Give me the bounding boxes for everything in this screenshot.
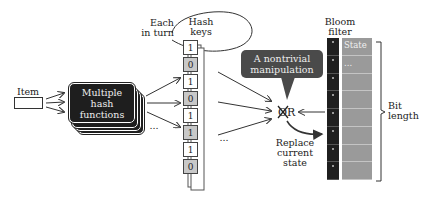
hash-key-bit: 0: [183, 57, 198, 72]
hash-functions-label-1: Multiple: [70, 87, 134, 98]
xor-operator-icon: OR: [276, 104, 296, 120]
hash-functions-label-2: hash: [70, 98, 134, 109]
bloom-filter-state-column: State ...: [342, 38, 372, 180]
hash-key-bit: 1: [183, 74, 198, 89]
bloom-state-row: State: [342, 38, 372, 56]
bloom-bit: [327, 56, 339, 74]
hash-key-bit: 1: [183, 125, 198, 140]
hash-keys-column: 1 0 1 0 1 1 1 0: [183, 40, 197, 176]
hash-functions-ellipsis: ...: [148, 121, 160, 131]
bloom-state-row: ...: [342, 56, 372, 74]
hash-key-bit: 1: [183, 142, 198, 157]
item-arrows: [46, 93, 64, 112]
each-in-turn-line-2: in turn: [138, 28, 174, 38]
each-in-turn-label: Each in turn: [138, 18, 174, 38]
hash-functions-box: Multiple hash functions: [69, 83, 135, 123]
item-label: Item: [14, 87, 42, 97]
bloom-bit: [327, 162, 339, 180]
bloom-bit: [327, 74, 339, 92]
bloom-bit: [327, 145, 339, 163]
bloom-bit: [327, 127, 339, 145]
replace-line-3: state: [274, 158, 316, 168]
bloom-filter-title-2: filter: [323, 27, 357, 37]
key-arrows: [218, 72, 271, 135]
bit-length-label: Bit length: [388, 101, 424, 121]
hash-key-bit: 1: [183, 40, 198, 55]
bit-length-brace: [376, 42, 385, 181]
bloom-filter-bits-column: [327, 38, 339, 180]
callout-line-2: manipulation: [241, 64, 323, 75]
bloom-state-row: [342, 74, 372, 92]
bloom-bit: [327, 109, 339, 127]
bloom-state-row: [342, 127, 372, 145]
hash-keys-title: Hash keys: [186, 17, 216, 37]
callout-tail: [281, 77, 295, 100]
nontrivial-manipulation-callout: A nontrivial manipulation: [241, 50, 323, 78]
replace-arrow: [287, 121, 322, 134]
bloom-state-row: [342, 145, 372, 163]
bloom-bit: [327, 91, 339, 109]
hash-keys-ellipsis: ...: [218, 133, 230, 143]
bloom-filter-title: Bloom filter: [323, 17, 357, 37]
bloom-bit: [327, 38, 339, 56]
bloom-state-row: [342, 162, 372, 180]
hash-functions-label-3: functions: [70, 109, 134, 120]
callout-line-1: A nontrivial: [241, 53, 323, 64]
item-box: [14, 97, 43, 109]
replace-current-state-label: Replace current state: [274, 138, 316, 168]
hash-key-bit: 1: [183, 108, 198, 123]
hash-key-bit: 0: [183, 159, 198, 174]
hash-keys-title-2: keys: [186, 27, 216, 37]
bit-length-line-2: length: [388, 111, 424, 121]
hash-key-bit: 0: [183, 91, 198, 106]
bloom-state-row: [342, 91, 372, 109]
bloom-state-row: [342, 109, 372, 127]
